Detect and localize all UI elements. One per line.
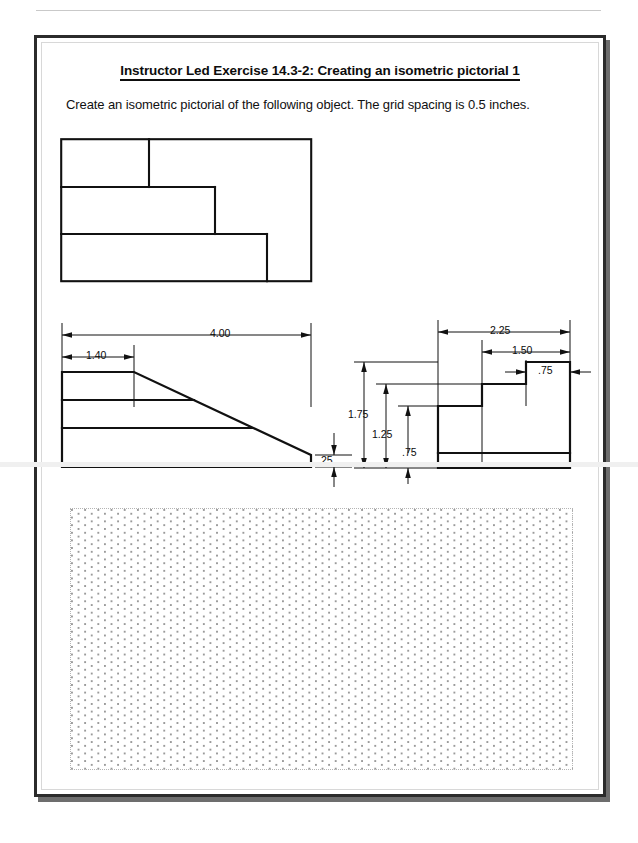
dim-front-edge-height: .25 <box>318 454 333 466</box>
scan-rule-top <box>36 10 601 11</box>
top-view-drawing <box>60 138 340 293</box>
dim-side-third-step: .75 <box>538 364 553 376</box>
dim-side-base-height: .75 <box>402 446 417 458</box>
instruction-text: Create an isometric pictorial of the fol… <box>66 97 530 112</box>
dim-side-mid-height: 1.25 <box>372 428 392 440</box>
page-title: Instructor Led Exercise 14.3-2: Creating… <box>42 63 598 78</box>
worksheet-page: Instructor Led Exercise 14.3-2: Creating… <box>41 42 599 790</box>
side-view-drawing: 2.25 1.50 .75 1.75 1.25 .75 <box>342 288 607 488</box>
dim-front-step-width: 1.40 <box>86 349 106 361</box>
dim-side-second-step: 1.50 <box>512 344 532 356</box>
dim-side-overall-height: 1.75 <box>348 408 368 420</box>
dim-front-overall-width: 4.00 <box>210 327 230 339</box>
dim-side-overall-depth: 2.25 <box>490 324 510 336</box>
page-title-text: Instructor Led Exercise 14.3-2: Creating… <box>120 63 519 81</box>
front-view-drawing: 4.00 1.40 .25 <box>60 315 360 485</box>
isometric-dot-grid[interactable] <box>70 508 573 770</box>
worksheet-sheet: Instructor Led Exercise 14.3-2: Creating… <box>34 35 606 797</box>
